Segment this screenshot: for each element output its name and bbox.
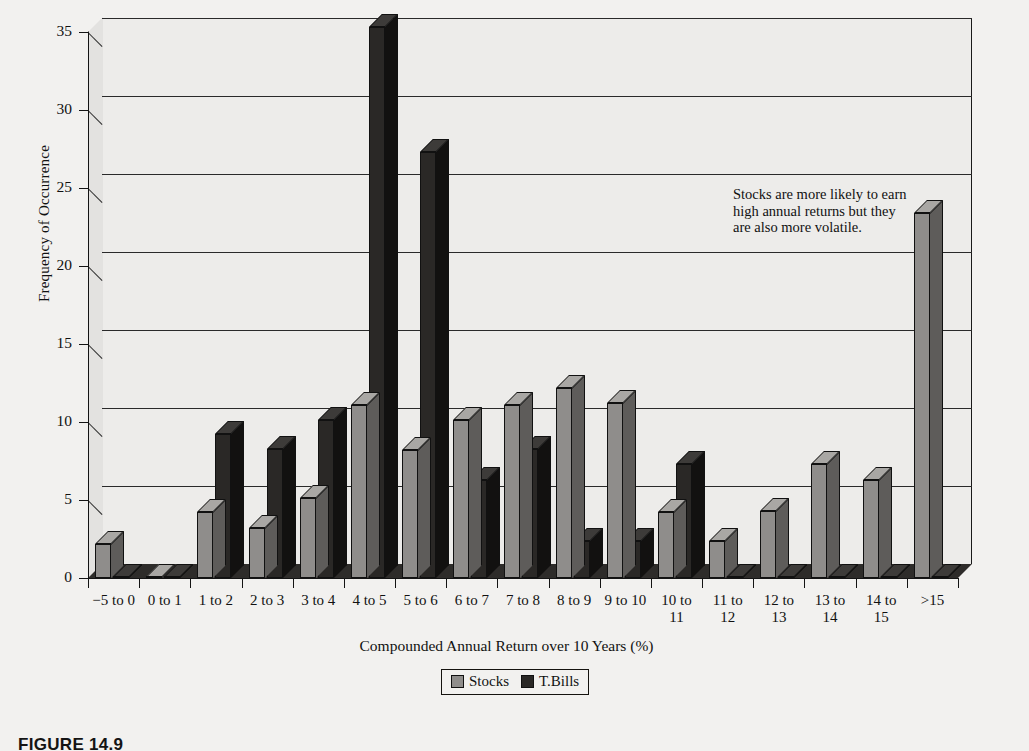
bar-stocks-9 — [556, 388, 572, 578]
bar-front-face — [197, 512, 213, 578]
bar-front-face — [113, 576, 129, 578]
y-axis-tick-label: 0 — [30, 568, 72, 586]
bar-stocks-8 — [504, 405, 520, 578]
x-axis-tick-label-line: 15 — [848, 609, 914, 626]
x-axis-tick — [139, 578, 140, 588]
bar-front-face — [146, 576, 162, 578]
bar-side-face — [367, 392, 380, 578]
bar-side-face — [776, 498, 789, 578]
bar-side-face — [879, 467, 892, 578]
bar-stocks-2 — [197, 512, 213, 578]
bar-front-face — [351, 405, 367, 578]
bar-side-face — [334, 407, 347, 578]
bar-side-face — [283, 436, 296, 578]
x-axis-tick — [344, 578, 345, 588]
x-axis-tick-label-line: >15 — [899, 592, 965, 609]
bar-stocks-6 — [402, 450, 418, 578]
bar-front-face — [829, 576, 845, 578]
y-axis-tick-label: 25 — [30, 178, 72, 196]
bar-front-face — [932, 576, 948, 578]
bar-side-face — [385, 14, 398, 578]
bar-front-face — [504, 405, 520, 578]
bar-side-face — [436, 139, 449, 578]
bar-front-face — [811, 464, 827, 578]
legend-swatch-icon — [451, 675, 464, 688]
bars-layer — [88, 18, 958, 578]
bar-stocks-4 — [300, 498, 316, 578]
bar-stocks-13 — [760, 511, 776, 578]
chart-annotation: Stocks are more likely to earn high annu… — [733, 186, 983, 236]
bar-side-face — [674, 499, 687, 578]
legend-item-tbills[interactable]: T.Bills — [521, 673, 579, 690]
bar-tbills-0 — [113, 577, 129, 578]
x-axis-title: Compounded Annual Return over 10 Years (… — [0, 637, 1029, 655]
y-axis-tick — [79, 32, 88, 33]
x-axis-tick — [753, 578, 754, 588]
bar-stocks-10 — [607, 403, 623, 578]
bar-front-face — [709, 541, 725, 578]
x-axis-tick — [497, 578, 498, 588]
bar-front-face — [402, 450, 418, 578]
legend-item-stocks[interactable]: Stocks — [451, 673, 509, 690]
x-axis-tick — [190, 578, 191, 588]
bar-front-face — [249, 528, 265, 578]
y-axis-tick-label: 15 — [30, 334, 72, 352]
figure-caption: FIGURE 14.9 — [18, 735, 123, 751]
bar-front-face — [727, 576, 743, 578]
x-axis-tick — [907, 578, 908, 588]
bar-side-face — [692, 451, 705, 578]
x-axis-title-text: Compounded Annual Return over 10 Years (… — [359, 637, 653, 654]
bar-stocks-5 — [351, 405, 367, 578]
bar-stocks-12 — [709, 541, 725, 578]
bar-front-face — [453, 420, 469, 578]
x-axis-tick — [651, 578, 652, 588]
x-axis-tick — [856, 578, 857, 588]
bar-stocks-3 — [249, 528, 265, 578]
bar-tbills-1 — [164, 577, 180, 578]
x-axis-tick — [804, 578, 805, 588]
bar-front-face — [164, 576, 180, 578]
y-axis-tick-label: 20 — [30, 256, 72, 274]
x-axis-tick — [702, 578, 703, 588]
annotation-line-3: are also more volatile. — [733, 219, 983, 236]
y-axis-tick — [79, 266, 88, 267]
bar-side-face — [538, 436, 551, 578]
x-axis-tick — [293, 578, 294, 588]
bar-stocks-14 — [811, 464, 827, 578]
bar-side-face — [316, 485, 329, 578]
y-axis-tick-label: 10 — [30, 412, 72, 430]
x-axis-tick — [958, 578, 959, 588]
x-axis-tick — [446, 578, 447, 588]
y-axis-tick-label: 30 — [30, 100, 72, 118]
legend-swatch-icon — [521, 675, 534, 688]
bar-front-face — [95, 544, 111, 578]
legend-label: T.Bills — [539, 673, 579, 690]
bar-side-face — [827, 451, 840, 578]
legend-label: Stocks — [469, 673, 509, 690]
y-axis-tick — [79, 188, 88, 189]
bar-side-face — [418, 437, 431, 578]
bar-tbills-15 — [881, 577, 897, 578]
bar-stocks-7 — [453, 420, 469, 578]
x-axis-tick — [600, 578, 601, 588]
bar-stocks-0 — [95, 544, 111, 578]
y-axis-title: Frequency of Occurrence — [36, 94, 53, 354]
annotation-line-1: Stocks are more likely to earn — [733, 186, 983, 203]
bar-front-face — [881, 576, 897, 578]
y-axis-tick — [79, 344, 88, 345]
bar-stocks-15 — [863, 480, 879, 578]
x-axis-tick-label: >15 — [899, 592, 965, 609]
bar-stocks-16 — [914, 213, 930, 578]
bar-front-face — [607, 403, 623, 578]
bar-side-face — [487, 467, 500, 578]
y-axis-tick — [79, 110, 88, 111]
bar-front-face — [760, 511, 776, 578]
y-axis-tick-label: 35 — [30, 22, 72, 40]
bar-side-face — [231, 421, 244, 578]
bar-side-face — [520, 392, 533, 578]
bar-side-face — [930, 200, 943, 578]
bar-side-face — [623, 390, 636, 578]
x-axis-tick — [88, 578, 89, 588]
annotation-line-2: high annual returns but they — [733, 203, 983, 220]
bar-stocks-1 — [146, 577, 162, 578]
